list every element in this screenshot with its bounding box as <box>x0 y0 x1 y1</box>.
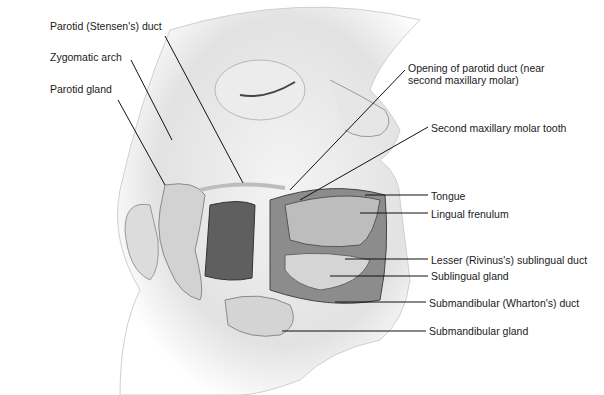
label-submandibular-duct: Submandibular (Wharton's) duct <box>429 297 579 309</box>
label-opening-parotid-duct-line2: second maxillary molar) <box>408 74 519 86</box>
label-sublingual-gland: Sublingual gland <box>431 270 509 282</box>
label-lingual-frenulum: Lingual frenulum <box>431 208 509 220</box>
label-submandibular-gland: Submandibular gland <box>429 325 528 337</box>
label-second-molar: Second maxillary molar tooth <box>431 122 566 134</box>
tongue-shape <box>285 196 380 247</box>
anatomy-figure: Parotid (Stensen's) duct Zygomatic arch … <box>0 0 604 395</box>
eye-shape <box>215 60 305 120</box>
masseter-shape <box>205 202 255 281</box>
label-tongue: Tongue <box>431 190 465 202</box>
label-lesser-sublingual-duct: Lesser (Rivinus's) sublingual duct <box>431 254 587 266</box>
label-zygomatic-arch: Zygomatic arch <box>50 51 122 63</box>
label-opening-parotid-duct: Opening of parotid duct (near <box>408 62 545 74</box>
label-parotid-gland: Parotid gland <box>50 83 112 95</box>
label-parotid-duct: Parotid (Stensen's) duct <box>50 20 162 32</box>
